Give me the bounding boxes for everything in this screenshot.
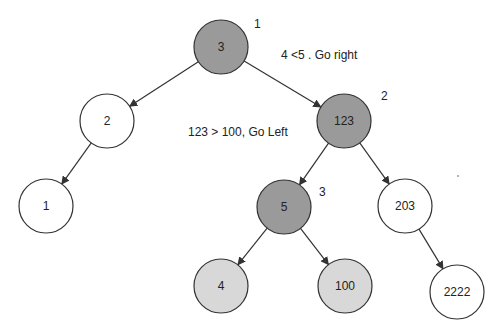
node-label: 5 xyxy=(281,200,288,214)
annotation-step-2-note: 123 > 100, Go Left xyxy=(188,125,288,139)
node-label: 100 xyxy=(335,279,355,293)
tree-node-5: 5 xyxy=(257,180,311,234)
node-label: 1 xyxy=(43,199,50,213)
tree-node-3: 3 xyxy=(194,20,248,74)
edge-n123-to-n5 xyxy=(299,143,328,185)
edge-n3-to-n123 xyxy=(244,61,321,107)
node-label: 2 xyxy=(104,114,111,128)
node-label: 2222 xyxy=(444,285,471,299)
tree-node-203: 203 xyxy=(378,179,432,233)
node-label: 123 xyxy=(334,114,354,128)
tree-node-1: 1 xyxy=(19,179,73,233)
edge-n5-to-n100 xyxy=(301,228,329,264)
tree-node-4: 4 xyxy=(194,259,248,313)
bst-search-diagram: 321231520341002222 14 <5 . Go right2123 … xyxy=(0,0,502,334)
edge-n5-to-n4 xyxy=(238,228,267,265)
edge-n2-to-n1 xyxy=(62,143,92,184)
edge-n123-to-n203 xyxy=(360,143,390,184)
node-label: 4 xyxy=(218,279,225,293)
node-label: 3 xyxy=(218,40,225,54)
node-label: 203 xyxy=(395,199,415,213)
tree-node-2222: 2222 xyxy=(430,265,484,319)
annotation-step-1-note: 4 <5 . Go right xyxy=(281,48,358,62)
annotation-step-1: 1 xyxy=(254,17,261,31)
annotation-step-3: 3 xyxy=(319,185,326,199)
tree-node-123: 123 xyxy=(317,94,371,148)
tree-node-100: 100 xyxy=(318,259,372,313)
stray-dot xyxy=(457,175,459,177)
annotation-step-2: 2 xyxy=(381,89,388,103)
edge-n203-to-n2222 xyxy=(419,229,443,269)
edge-n3-to-n2 xyxy=(130,62,199,107)
tree-node-2: 2 xyxy=(80,94,134,148)
